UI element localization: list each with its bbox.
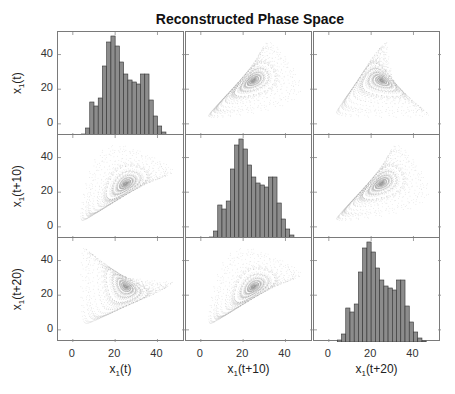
xtick-label: 0: [316, 347, 340, 359]
y-axis-label: x1(t+20): [10, 249, 26, 329]
xtick-label: 0: [60, 347, 84, 359]
panel-r1-c2: [313, 134, 440, 238]
xtick-label: 20: [230, 347, 254, 359]
y-axis-label: x1(t): [10, 43, 26, 123]
panel-r1-c1: [185, 134, 312, 238]
xtick-label: 40: [400, 347, 424, 359]
y-axis-label: x1(t+10): [10, 146, 26, 226]
ytick-label: 40: [33, 47, 53, 59]
panel-r0-c2: [313, 31, 440, 135]
ytick-label: 40: [33, 150, 53, 162]
panel-r2-c2: [313, 237, 440, 341]
ytick-label: 20: [33, 81, 53, 93]
ytick-label: 20: [33, 184, 53, 196]
xtick-label: 20: [102, 347, 126, 359]
xtick-label: 40: [144, 347, 168, 359]
panel-r2-c1: [185, 237, 312, 341]
panel-r2-c0: [57, 237, 184, 341]
ytick-label: 0: [33, 116, 53, 128]
ytick-label: 0: [33, 322, 53, 334]
xtick-label: 0: [188, 347, 212, 359]
xtick-label: 40: [272, 347, 296, 359]
x-axis-label: x1(t): [71, 362, 171, 378]
xtick-label: 20: [358, 347, 382, 359]
panel-r0-c1: [185, 31, 312, 135]
panel-r1-c0: [57, 134, 184, 238]
panel-r0-c0: [57, 31, 184, 135]
x-axis-label: x1(t+20): [327, 362, 427, 378]
ytick-label: 0: [33, 219, 53, 231]
ytick-label: 40: [33, 253, 53, 265]
x-axis-label: x1(t+10): [199, 362, 299, 378]
ytick-label: 20: [33, 287, 53, 299]
chart-title: Reconstructed Phase Space: [0, 11, 455, 27]
